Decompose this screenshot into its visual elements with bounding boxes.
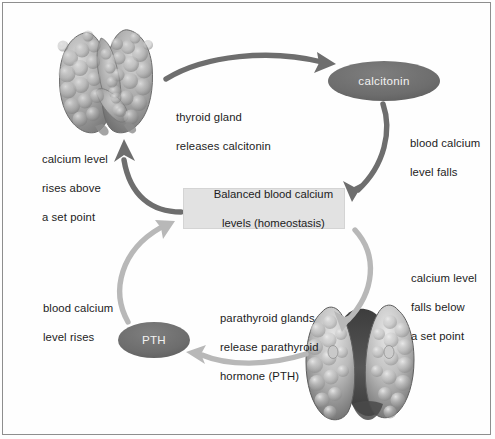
label-calcium-falls-below-line-1: calcium level — [411, 272, 477, 284]
label-blood-calcium-rises-line-2: level rises — [43, 331, 94, 343]
arrow-calcitonin-to-box — [343, 104, 387, 202]
label-calcium-rises-above: calcium level rises above a set point — [29, 138, 108, 239]
arrow-thyroid-to-calcitonin — [166, 52, 336, 79]
label-thyroid-release-line-2: releases calcitonin — [176, 140, 271, 152]
homeostasis-box-text: Balanced blood calcium levels (homeostas… — [195, 172, 333, 245]
label-calcium-rises-above-line-2: rises above — [42, 182, 101, 194]
label-parathyroid-release-line-2: release parathyroid — [220, 341, 319, 353]
thyroid-gland-image — [58, 30, 154, 136]
label-blood-calcium-falls: blood calcium level falls — [397, 122, 480, 194]
diagram-canvas: calcitonin PTH Balanced blood calcium le… — [0, 0, 495, 439]
label-calcium-falls-below-line-2: falls below — [411, 301, 465, 313]
label-parathyroid-release-line-1: parathyroid glands — [220, 312, 315, 324]
homeostasis-box: Balanced blood calcium levels (homeostas… — [183, 188, 345, 229]
label-calcium-rises-above-line-3: a set point — [42, 211, 95, 223]
homeostasis-line-1: Balanced blood calcium — [214, 188, 333, 200]
label-blood-calcium-falls-line-2: level falls — [410, 166, 458, 178]
label-blood-calcium-falls-line-1: blood calcium — [410, 137, 480, 149]
label-thyroid-release: thyroid gland releases calcitonin — [163, 96, 271, 168]
label-calcium-rises-above-line-1: calcium level — [42, 153, 108, 165]
label-calcium-falls-below: calcium level falls below a set point — [398, 257, 477, 358]
label-blood-calcium-rises-line-1: blood calcium — [43, 302, 113, 314]
pth-label: PTH — [119, 333, 189, 346]
label-blood-calcium-rises: blood calcium level rises — [30, 287, 113, 359]
label-thyroid-release-line-1: thyroid gland — [176, 111, 242, 123]
calcitonin-label: calcitonin — [329, 74, 439, 87]
arrow-pth-to-box — [120, 220, 175, 322]
label-parathyroid-release: parathyroid glands release parathyroid h… — [207, 297, 319, 398]
label-calcium-falls-below-line-3: a set point — [411, 330, 464, 342]
homeostasis-line-2: levels (homeostasis) — [222, 217, 325, 229]
label-parathyroid-release-line-3: hormone (PTH) — [220, 370, 299, 382]
